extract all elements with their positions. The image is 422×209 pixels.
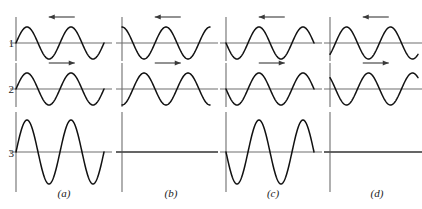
row-label-3: 3: [2, 148, 14, 159]
column-label-b: (b): [151, 188, 191, 199]
row-label-1: 1: [2, 38, 14, 49]
column-label-d: (d): [357, 188, 397, 199]
column-label-a: (a): [44, 188, 84, 199]
column-label-c: (c): [253, 188, 293, 199]
row-label-2: 2: [2, 84, 14, 95]
wave-superposition-figure: 1 2 3 (a) (b) (c) (d): [0, 0, 422, 209]
